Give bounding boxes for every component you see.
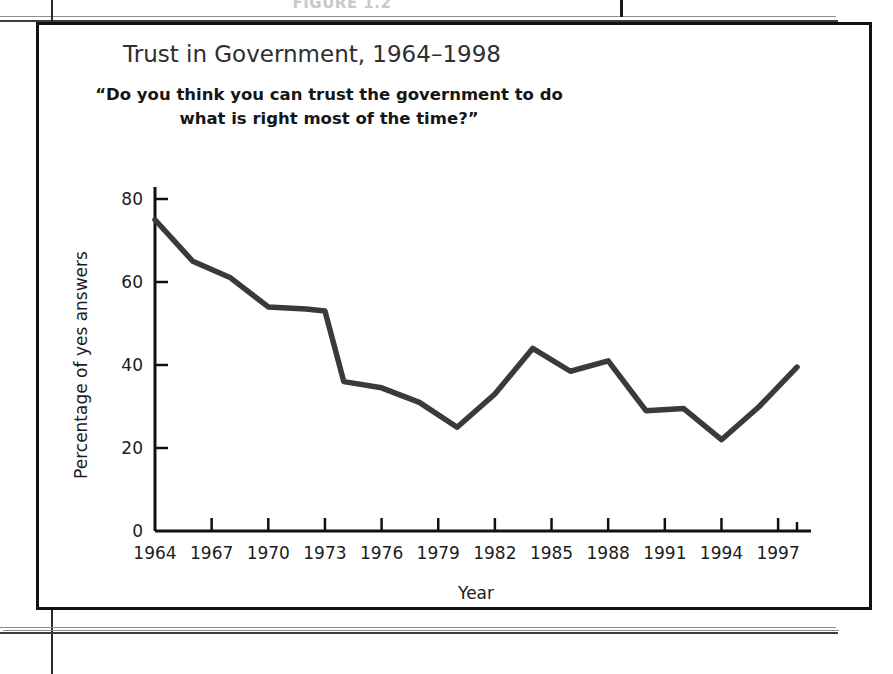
x-tick-label: 1970 — [247, 543, 290, 563]
x-tick-label: 1994 — [700, 543, 743, 563]
x-axis-title: Year — [457, 583, 494, 603]
x-axis: 1964196719701973197619791982198519881991… — [133, 518, 799, 563]
x-tick-label: 1985 — [530, 543, 573, 563]
y-tick-label: 60 — [121, 272, 143, 292]
page-rule-bottom-thin-outer — [0, 627, 836, 628]
trust-line-series — [155, 220, 797, 440]
page-rule-bottom — [0, 632, 838, 634]
x-tick-label: 1988 — [587, 543, 630, 563]
axis-lines — [155, 187, 811, 531]
x-tick-label: 1997 — [756, 543, 799, 563]
page-root: FIGURE 1.2 Trust in Government, 1964–199… — [0, 0, 893, 674]
y-axis: 020406080 — [121, 189, 168, 541]
x-tick-label: 1973 — [303, 543, 346, 563]
x-tick-label: 1976 — [360, 543, 403, 563]
figure-box: Trust in Government, 1964–1998 “Do you t… — [36, 22, 872, 610]
x-tick-label: 1964 — [133, 543, 176, 563]
column-tick-mark — [620, 0, 623, 17]
figure-caption: FIGURE 1.2 — [222, 0, 462, 12]
y-tick-label: 80 — [121, 189, 143, 209]
plot-area: 020406080 196419671970197319761979198219… — [39, 25, 875, 613]
y-tick-label: 0 — [132, 521, 143, 541]
y-axis-title: Percentage of yes answers — [71, 251, 91, 479]
x-tick-label: 1979 — [417, 543, 460, 563]
page-rule-bottom-thin — [3, 630, 839, 631]
x-tick-label: 1967 — [190, 543, 233, 563]
line-chart-svg: 020406080 196419671970197319761979198219… — [39, 25, 875, 613]
y-tick-label: 20 — [121, 438, 143, 458]
page-rule-top-thin — [0, 16, 836, 17]
y-tick-label: 40 — [121, 355, 143, 375]
x-tick-label: 1991 — [643, 543, 686, 563]
x-tick-label: 1982 — [473, 543, 516, 563]
